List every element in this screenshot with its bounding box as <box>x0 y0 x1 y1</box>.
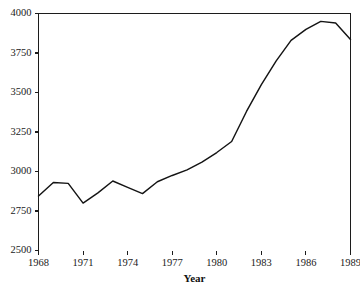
x-axis-ticks <box>39 251 351 255</box>
chart-canvas: 2500275030003250350037504000 19681971197… <box>0 0 360 289</box>
x-axis-tick-labels: 19681971197419771980198319861989 <box>28 257 360 268</box>
y-tick-label: 4000 <box>11 7 32 18</box>
y-tick-label: 3500 <box>11 86 32 97</box>
y-axis-tick-labels: 2500275030003250350037504000 <box>11 7 32 255</box>
axes-frame <box>39 14 351 251</box>
x-tick-label: 1989 <box>340 257 360 268</box>
x-tick-label: 1977 <box>162 257 183 268</box>
y-axis-ticks <box>35 14 39 251</box>
y-tick-label: 3250 <box>11 126 32 137</box>
plot-frame <box>39 14 351 251</box>
x-tick-label: 1986 <box>295 257 316 268</box>
y-tick-label: 2750 <box>11 205 32 216</box>
x-tick-label: 1983 <box>251 257 272 268</box>
y-tick-label: 2500 <box>11 244 32 255</box>
data-series-group <box>39 21 351 203</box>
x-axis-title: Year <box>184 272 206 284</box>
y-tick-label: 3000 <box>11 165 32 176</box>
x-tick-label: 1971 <box>73 257 94 268</box>
line-chart: 2500275030003250350037504000 19681971197… <box>0 0 360 289</box>
x-tick-label: 1980 <box>206 257 227 268</box>
x-tick-label: 1968 <box>28 257 49 268</box>
y-tick-label: 3750 <box>11 47 32 58</box>
data-series-line <box>39 21 351 203</box>
x-tick-label: 1974 <box>117 257 139 268</box>
